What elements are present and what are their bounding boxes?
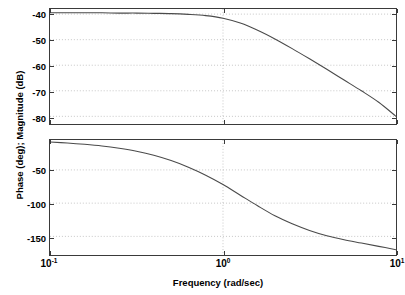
y-tick-label: -60	[32, 61, 46, 72]
y-tick-mark	[392, 238, 396, 239]
x-tick-mark	[224, 9, 225, 13]
y-tick-mark	[392, 118, 396, 119]
y-tick-mark	[392, 204, 396, 205]
y-tick-label: -70	[32, 87, 46, 98]
x-tick-mantissa: 10	[216, 258, 227, 269]
y-tick-mark	[392, 66, 396, 67]
x-tick-mark	[397, 120, 398, 124]
y-tick-mark	[392, 40, 396, 41]
x-tick-mark	[50, 9, 51, 13]
x-tick-mark	[50, 251, 51, 255]
x-tick-mark	[50, 140, 51, 144]
y-tick-mark	[392, 14, 396, 15]
y-tick-label: -100	[27, 199, 46, 210]
x-tick-mark	[224, 140, 225, 144]
y-axis-label: Phase (deg); Magnitude (dB)	[13, 5, 27, 265]
phase-plot-area	[50, 140, 396, 255]
y-tick-mark	[50, 170, 54, 171]
magnitude-panel: -40-50-60-70-80	[49, 8, 397, 125]
y-tick-mark	[50, 14, 54, 15]
y-tick-mark	[50, 66, 54, 67]
y-tick-mark	[50, 40, 54, 41]
x-tick-label: 101	[390, 258, 405, 269]
y-tick-label: -80	[32, 113, 46, 124]
x-tick-exponent: -1	[52, 257, 58, 264]
x-tick-mark	[50, 120, 51, 124]
y-tick-label: -50	[32, 35, 46, 46]
x-tick-mantissa: 10	[41, 258, 52, 269]
y-tick-mark	[392, 92, 396, 93]
y-tick-mark	[50, 238, 54, 239]
x-tick-mark	[224, 120, 225, 124]
x-tick-label: 10-1	[41, 258, 58, 269]
x-axis-label: Frequency (rad/sec)	[48, 277, 388, 288]
x-tick-label: 100	[216, 258, 231, 269]
magnitude-plot-area	[50, 9, 396, 124]
y-tick-label: -50	[32, 165, 46, 176]
y-tick-mark	[50, 92, 54, 93]
x-tick-exponent: 1	[401, 257, 405, 264]
x-tick-mark	[397, 9, 398, 13]
x-tick-mark	[397, 140, 398, 144]
x-tick-mark	[397, 251, 398, 255]
y-tick-mark	[392, 170, 396, 171]
x-tick-mark	[224, 251, 225, 255]
x-tick-mantissa: 10	[390, 258, 401, 269]
y-tick-label: -150	[27, 233, 46, 244]
x-tick-exponent: 0	[227, 257, 231, 264]
y-tick-mark	[50, 204, 54, 205]
y-tick-label: -40	[32, 9, 46, 20]
phase-panel: -50-100-150	[49, 139, 397, 256]
bode-plot-figure: Phase (deg); Magnitude (dB) -40-50-60-70…	[0, 0, 405, 295]
